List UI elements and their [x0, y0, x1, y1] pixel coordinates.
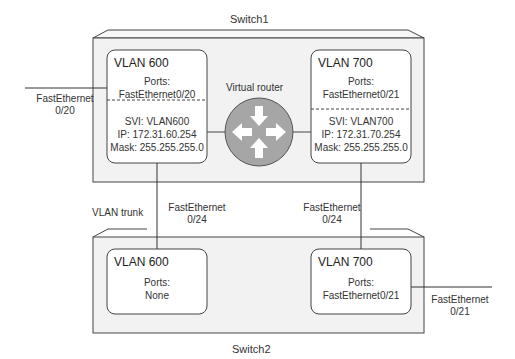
sw2-vlan700-ports-label: Ports: [311, 276, 411, 289]
sw1-vlan700-ports-label: Ports: [311, 75, 411, 88]
sw1-vlan700-svi: SVI: VLAN700 [311, 115, 411, 128]
sw1-vlan700-ip: IP: 172.31.70.254 [311, 128, 411, 141]
sw1-vlan600-ports-label: Ports: [107, 75, 207, 88]
sw1-vlan700-title: VLAN 700 [318, 56, 373, 70]
sw2-vlan600-title: VLAN 600 [114, 255, 169, 269]
sw2-vlan700-title: VLAN 700 [318, 255, 373, 269]
switch2-label: Switch2 [232, 343, 271, 355]
port-name: FastEthernet [162, 202, 232, 214]
sw1-vlan600-title: VLAN 600 [114, 56, 169, 70]
virtual-router-label: Virtual router [226, 82, 283, 94]
sw2-vlan600-ports: None [107, 289, 207, 302]
sw2-vlan600-ports-label: Ports: [107, 276, 207, 289]
sw1-vlan700-ports: FastEthernet0/21 [311, 88, 411, 101]
sw1-vlan600-ports: FastEthernet0/20 [107, 88, 207, 101]
sw1-port-fa0-20-label: FastEthernet 0/20 [30, 93, 100, 117]
sw2-port-fa0-21-label: FastEthernet 0/21 [425, 294, 495, 318]
port-number: 0/24 [297, 214, 367, 226]
port-name: FastEthernet [425, 294, 495, 306]
trunk-left-port-label: FastEthernet 0/24 [162, 202, 232, 226]
sw1-vlan600-svi: SVI: VLAN600 [107, 115, 207, 128]
port-name: FastEthernet [30, 93, 100, 105]
sw2-vlan700-ports: FastEthernet0/21 [311, 289, 411, 302]
port-number: 0/20 [30, 105, 100, 117]
switch1-label: Switch1 [230, 13, 269, 25]
port-number: 0/24 [162, 214, 232, 226]
trunk-right-port-label: FastEthernet 0/24 [297, 202, 367, 226]
sw1-vlan700-mask: Mask: 255.255.255.0 [311, 141, 411, 154]
port-name: FastEthernet [297, 202, 367, 214]
port-number: 0/21 [425, 306, 495, 318]
sw1-vlan600-mask: Mask: 255.255.255.0 [107, 141, 207, 154]
vlan-trunk-label: VLAN trunk [92, 207, 143, 219]
sw1-vlan600-ip: IP: 172.31.60.254 [107, 128, 207, 141]
